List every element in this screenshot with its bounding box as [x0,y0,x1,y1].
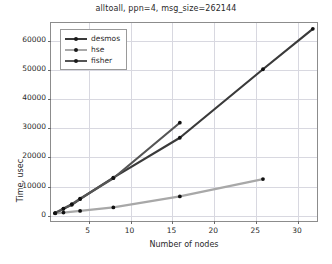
data-point-hse [178,195,182,199]
data-point-fisher [178,121,182,125]
data-point-hse [111,206,115,210]
y-tick-label: 50000 [2,64,46,73]
y-tickmark [48,99,51,100]
y-tick-label: 40000 [2,93,46,102]
x-tickmark [131,221,132,224]
data-point-fisher [70,202,74,206]
y-tickmark [48,187,51,188]
data-point-desmos [311,27,315,31]
x-tickmark [256,221,257,224]
x-tick-label: 10 [115,226,145,235]
y-tickmark [48,216,51,217]
y-tickmark [48,70,51,71]
y-tick-label: 60000 [2,35,46,44]
legend-marker-icon [74,37,78,41]
data-point-hse [261,177,265,181]
data-point-fisher [78,197,82,201]
legend-label-desmos: desmos [91,33,120,44]
y-tick-label: 20000 [2,151,46,160]
chart-title: alltoall, ppn=4, msg_size=262144 [0,4,332,13]
data-point-fisher [62,207,66,211]
x-tickmark [172,221,173,224]
figure-canvas: alltoall, ppn=4, msg_size=262144 Time, u… [0,0,332,264]
legend-marker-icon [74,59,78,63]
y-tick-label: 0 [2,210,46,219]
x-tickmark [298,221,299,224]
legend: desmos hse fisher [60,29,127,70]
legend-item-hse[interactable]: hse [65,44,120,55]
legend-item-fisher[interactable]: fisher [65,55,120,66]
x-tick-label: 15 [156,226,186,235]
legend-marker-icon [74,48,78,52]
data-point-hse [62,211,66,215]
legend-swatch-fisher [65,57,87,64]
legend-swatch-desmos [65,35,87,42]
x-tick-label: 25 [240,226,270,235]
y-tickmark [48,128,51,129]
legend-swatch-hse [65,46,87,53]
x-axis-label: Number of nodes [50,240,318,249]
y-tick-label: 10000 [2,181,46,190]
x-tick-label: 30 [282,226,312,235]
y-tickmark [48,41,51,42]
data-point-desmos [178,136,182,140]
legend-label-hse: hse [91,44,104,55]
legend-item-desmos[interactable]: desmos [65,33,120,44]
y-tick-label: 30000 [2,122,46,131]
data-point-fisher [111,176,115,180]
data-point-fisher [53,211,57,215]
x-tickmark [89,221,90,224]
y-tickmark [48,157,51,158]
plot-area: desmos hse fisher [50,22,318,222]
data-point-hse [78,209,82,213]
x-tickmark [214,221,215,224]
x-tick-label: 20 [198,226,228,235]
data-point-desmos [261,67,265,71]
legend-label-fisher: fisher [91,55,112,66]
x-tick-label: 5 [73,226,103,235]
